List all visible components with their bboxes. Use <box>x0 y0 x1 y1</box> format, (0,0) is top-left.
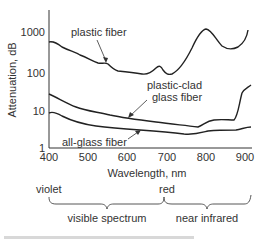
arrow-icon <box>135 130 141 135</box>
y-tick-100: 100 <box>27 67 45 79</box>
cropped-caption-fragment <box>4 236 194 239</box>
attenuation-chart: 1000 100 10 1 Attenuation, dB 400 500 60… <box>0 0 267 239</box>
near-infrared-label: near infrared <box>176 212 238 224</box>
all-glass-pointer <box>128 132 138 139</box>
y-tick-1000: 1000 <box>21 26 45 38</box>
x-tick-600: 600 <box>118 151 136 163</box>
near-infrared-brace <box>164 195 251 209</box>
plastic-clad-pointer <box>130 100 147 116</box>
x-tick-400: 400 <box>40 151 58 163</box>
y-tick-10: 10 <box>33 105 45 117</box>
plastic-clad-glass-fiber-curve <box>49 85 251 127</box>
red-label: red <box>159 183 175 195</box>
x-tick-500: 500 <box>79 151 97 163</box>
x-tick-700: 700 <box>158 151 176 163</box>
x-tick-900: 900 <box>236 151 254 163</box>
visible-spectrum-label: visible spectrum <box>68 212 147 224</box>
plastic-clad-label-line2: glass fiber <box>152 91 202 103</box>
all-glass-fiber-curve <box>49 112 251 134</box>
y-axis-label: Attenuation, dB <box>6 42 18 117</box>
all-glass-fiber-label: all-glass fiber <box>62 136 127 148</box>
arrow-icon <box>103 57 108 63</box>
plastic-clad-label-line1: plastic-clad <box>147 79 202 91</box>
plastic-fiber-label: plastic fiber <box>71 26 127 38</box>
x-tick-800: 800 <box>197 151 215 163</box>
violet-label: violet <box>36 183 62 195</box>
x-axis-label: Wavelength, nm <box>107 167 186 179</box>
visible-spectrum-brace <box>49 197 164 209</box>
